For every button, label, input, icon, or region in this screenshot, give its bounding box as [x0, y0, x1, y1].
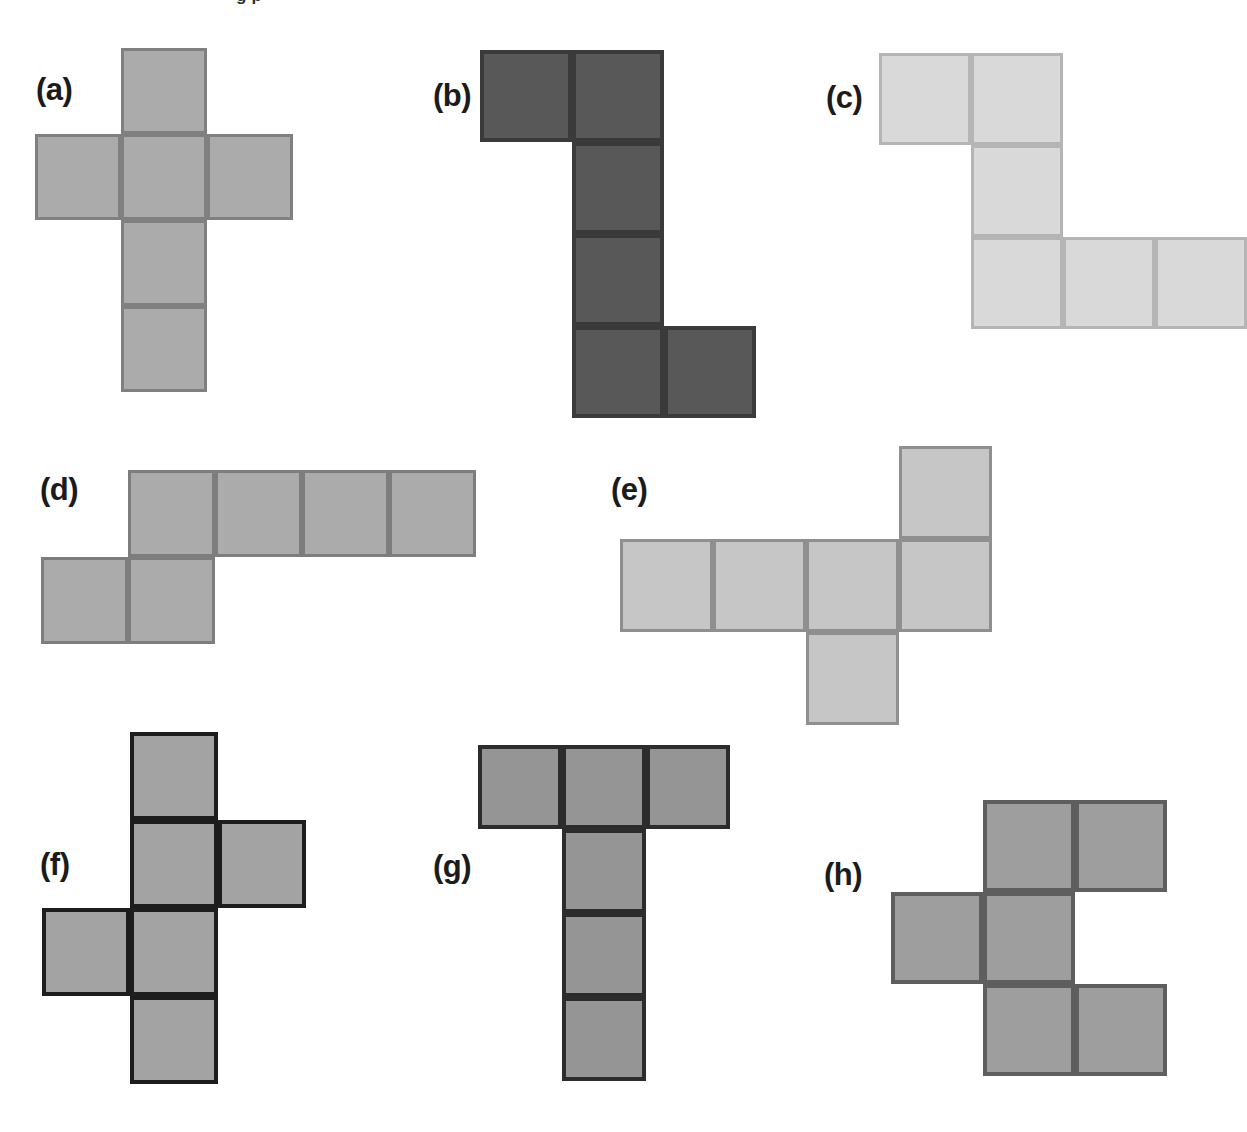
net-cell — [218, 820, 306, 908]
net-cell — [302, 470, 389, 557]
net-cell — [1075, 984, 1167, 1076]
figure-label-h: (h) — [824, 859, 862, 890]
net-cell — [971, 53, 1063, 145]
net-cell — [983, 892, 1075, 984]
net-cell — [646, 745, 730, 829]
net-cell — [478, 745, 562, 829]
net-cell — [1155, 237, 1247, 329]
net-b — [480, 50, 756, 418]
net-cell — [572, 50, 664, 142]
net-cell — [664, 326, 756, 418]
net-cell — [389, 470, 476, 557]
net-cell — [713, 539, 806, 632]
figure-label-b: (b) — [433, 80, 471, 111]
net-cell — [121, 306, 207, 392]
net-cell — [35, 134, 121, 220]
net-cell — [806, 632, 899, 725]
net-cell — [899, 446, 992, 539]
net-cell — [207, 134, 293, 220]
net-cell — [879, 53, 971, 145]
net-cell — [128, 470, 215, 557]
net-cell — [983, 984, 1075, 1076]
net-cell — [1063, 237, 1155, 329]
net-cell — [215, 470, 302, 557]
net-cell — [42, 908, 130, 996]
net-cell — [891, 892, 983, 984]
net-cell — [480, 50, 572, 142]
net-cell — [121, 48, 207, 134]
net-cell — [572, 326, 664, 418]
net-cell — [572, 234, 664, 326]
net-cell — [899, 539, 992, 632]
net-cell — [572, 142, 664, 234]
net-cell — [130, 996, 218, 1084]
net-cell — [562, 745, 646, 829]
net-cell — [562, 997, 646, 1081]
net-cell — [971, 237, 1063, 329]
net-cell — [806, 539, 899, 632]
cropped-header-text: g p — [0, 0, 1214, 6]
net-cell — [130, 908, 218, 996]
net-cell — [1075, 800, 1167, 892]
net-d — [41, 470, 476, 644]
net-cell — [971, 145, 1063, 237]
net-cell — [620, 539, 713, 632]
net-h — [891, 800, 1167, 1076]
net-a — [35, 48, 293, 392]
net-f — [42, 732, 306, 1084]
net-cell — [562, 829, 646, 913]
net-c — [879, 53, 1247, 329]
net-cell — [121, 220, 207, 306]
net-e — [620, 446, 992, 725]
figure-label-g: (g) — [433, 851, 471, 882]
net-cell — [128, 557, 215, 644]
net-g — [478, 745, 730, 1081]
net-cell — [41, 557, 128, 644]
net-cell — [121, 134, 207, 220]
net-cell — [130, 732, 218, 820]
net-cell — [130, 820, 218, 908]
figure-label-c: (c) — [826, 82, 862, 113]
net-cell — [562, 913, 646, 997]
net-cell — [983, 800, 1075, 892]
